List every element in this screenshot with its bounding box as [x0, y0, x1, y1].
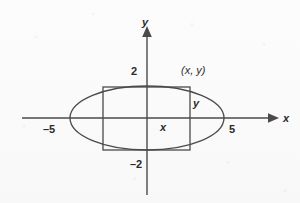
x-axis-label: x: [283, 113, 289, 124]
x-axis-arrowhead: [268, 113, 279, 123]
y-axis-tick-label-2: 2: [131, 66, 137, 77]
x-axis-tick-label-5: 5: [229, 124, 235, 135]
rectangle-half-height-label: y: [193, 98, 199, 109]
y-axis-label: y: [142, 17, 148, 28]
x-axis-tick-label-negative-5: –5: [43, 124, 55, 135]
figure-canvas: 2 –2 –5 5 x y x y (x, y): [0, 0, 300, 203]
rectangle-half-width-label: x: [160, 122, 166, 133]
y-axis-tick-label-negative-2: –2: [130, 159, 142, 170]
corner-point-label: (x, y): [181, 65, 205, 76]
axes-group: [22, 26, 279, 195]
coordinate-plot-svg: [0, 0, 300, 203]
